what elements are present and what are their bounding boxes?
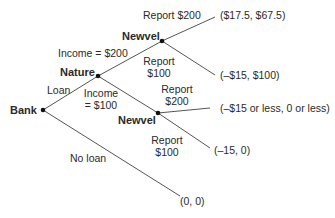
edge-label-bottom-report-200-line2: $200 (160, 95, 194, 107)
node-dot-bank (41, 108, 46, 113)
edge-label-income-100: Income = $100 (81, 87, 121, 111)
payoff-3: (–$15 or less, 0 or less) (220, 102, 330, 114)
payoff-5: (0, 0) (180, 195, 205, 207)
edge-label-income-100-line2: = $100 (81, 99, 121, 111)
edge-label-bottom-report-100: Report $100 (150, 134, 184, 158)
payoff-4: (–15, 0) (214, 144, 250, 156)
node-label-bank: Bank (10, 104, 37, 116)
node-dot-newvel-top (160, 39, 165, 44)
node-dot-newvel-bottom (156, 111, 161, 116)
edge-label-income-200: Income = $200 (58, 47, 128, 59)
payoff-1: ($17.5, $67.5) (220, 9, 285, 21)
edge-label-loan: Loan (47, 84, 70, 96)
edge-label-bottom-report-200-line1: Report (160, 83, 194, 95)
edge-label-bottom-report-100-line1: Report (150, 134, 184, 146)
edge-label-top-report-100: Report $100 (142, 55, 176, 79)
edge-label-bottom-report-200: Report $200 (160, 83, 194, 107)
node-label-newvel-top: Newvel (122, 30, 160, 42)
node-dot-nature (96, 74, 101, 79)
edge-label-bottom-report-100-line2: $100 (150, 146, 184, 158)
node-label-newvel-bottom: Newvel (118, 114, 156, 126)
edge-label-income-100-line1: Income (81, 87, 121, 99)
edge-bottom-report-200 (158, 108, 210, 113)
edge-label-top-report-200: Report $200 (143, 9, 201, 21)
edge-label-top-report-100-line2: $100 (142, 67, 176, 79)
payoff-2: (–$15, $100) (220, 69, 280, 81)
edge-label-top-report-100-line1: Report (142, 55, 176, 67)
node-label-nature: Nature (60, 66, 95, 78)
edge-label-no-loan: No loan (70, 152, 106, 164)
